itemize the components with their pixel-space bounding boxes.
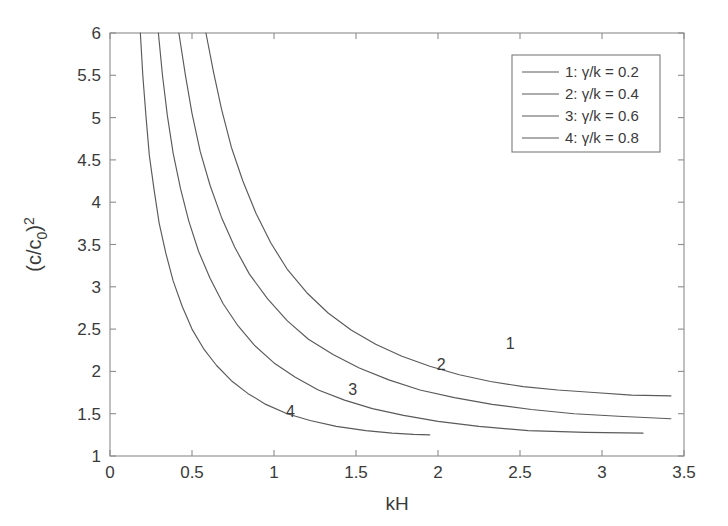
y-tick-label: 1.5 (77, 405, 101, 424)
ylabel-close: ) (23, 225, 45, 232)
x-tick-label: 2 (433, 463, 442, 482)
y-axis-title-text: (c/c0)2 (21, 217, 50, 272)
y-tick-label: 3.5 (77, 236, 101, 255)
y-axis-title: (c/c0)2 (21, 217, 50, 272)
ylabel-subscript: 0 (34, 232, 50, 240)
x-tick-label: 1.5 (344, 463, 368, 482)
y-tick-label: 5 (92, 109, 101, 128)
legend-label-4: 4: γ/k = 0.8 (565, 129, 639, 146)
figure-container: 00.511.522.533.511.522.533.544.555.56 12… (0, 0, 728, 526)
y-tick-label: 4 (92, 193, 101, 212)
legend-label-1: 1: γ/k = 0.2 (565, 63, 639, 80)
curve-4 (140, 33, 429, 435)
y-tick-label: 3 (92, 278, 101, 297)
x-tick-label: 2.5 (508, 463, 532, 482)
curve-label-4: 4 (286, 403, 295, 420)
x-tick-label: 1 (269, 463, 278, 482)
x-tick-label: 3 (597, 463, 606, 482)
ylabel-base: (c/c (23, 240, 45, 272)
x-tick-label: 0 (105, 463, 114, 482)
y-tick-label: 2 (92, 362, 101, 381)
legend-label-3: 3: γ/k = 0.6 (565, 107, 639, 124)
curve-label-2: 2 (437, 356, 446, 373)
ylabel-superscript: 2 (21, 217, 37, 225)
curve-labels-group: 1234 (286, 335, 515, 420)
x-tick-label: 3.5 (672, 463, 696, 482)
y-tick-label: 6 (92, 24, 101, 43)
chart-canvas: 00.511.522.533.511.522.533.544.555.56 12… (0, 0, 728, 526)
legend-group: 1: γ/k = 0.22: γ/k = 0.43: γ/k = 0.64: γ… (512, 55, 660, 152)
y-tick-label: 1 (92, 447, 101, 466)
x-tick-label: 0.5 (180, 463, 204, 482)
x-axis-title: kH (385, 493, 408, 514)
y-tick-label: 5.5 (77, 66, 101, 85)
y-tick-label: 4.5 (77, 151, 101, 170)
y-tick-label: 2.5 (77, 320, 101, 339)
curve-label-1: 1 (506, 335, 515, 352)
legend-label-2: 2: γ/k = 0.4 (565, 85, 639, 102)
curve-label-3: 3 (348, 381, 357, 398)
